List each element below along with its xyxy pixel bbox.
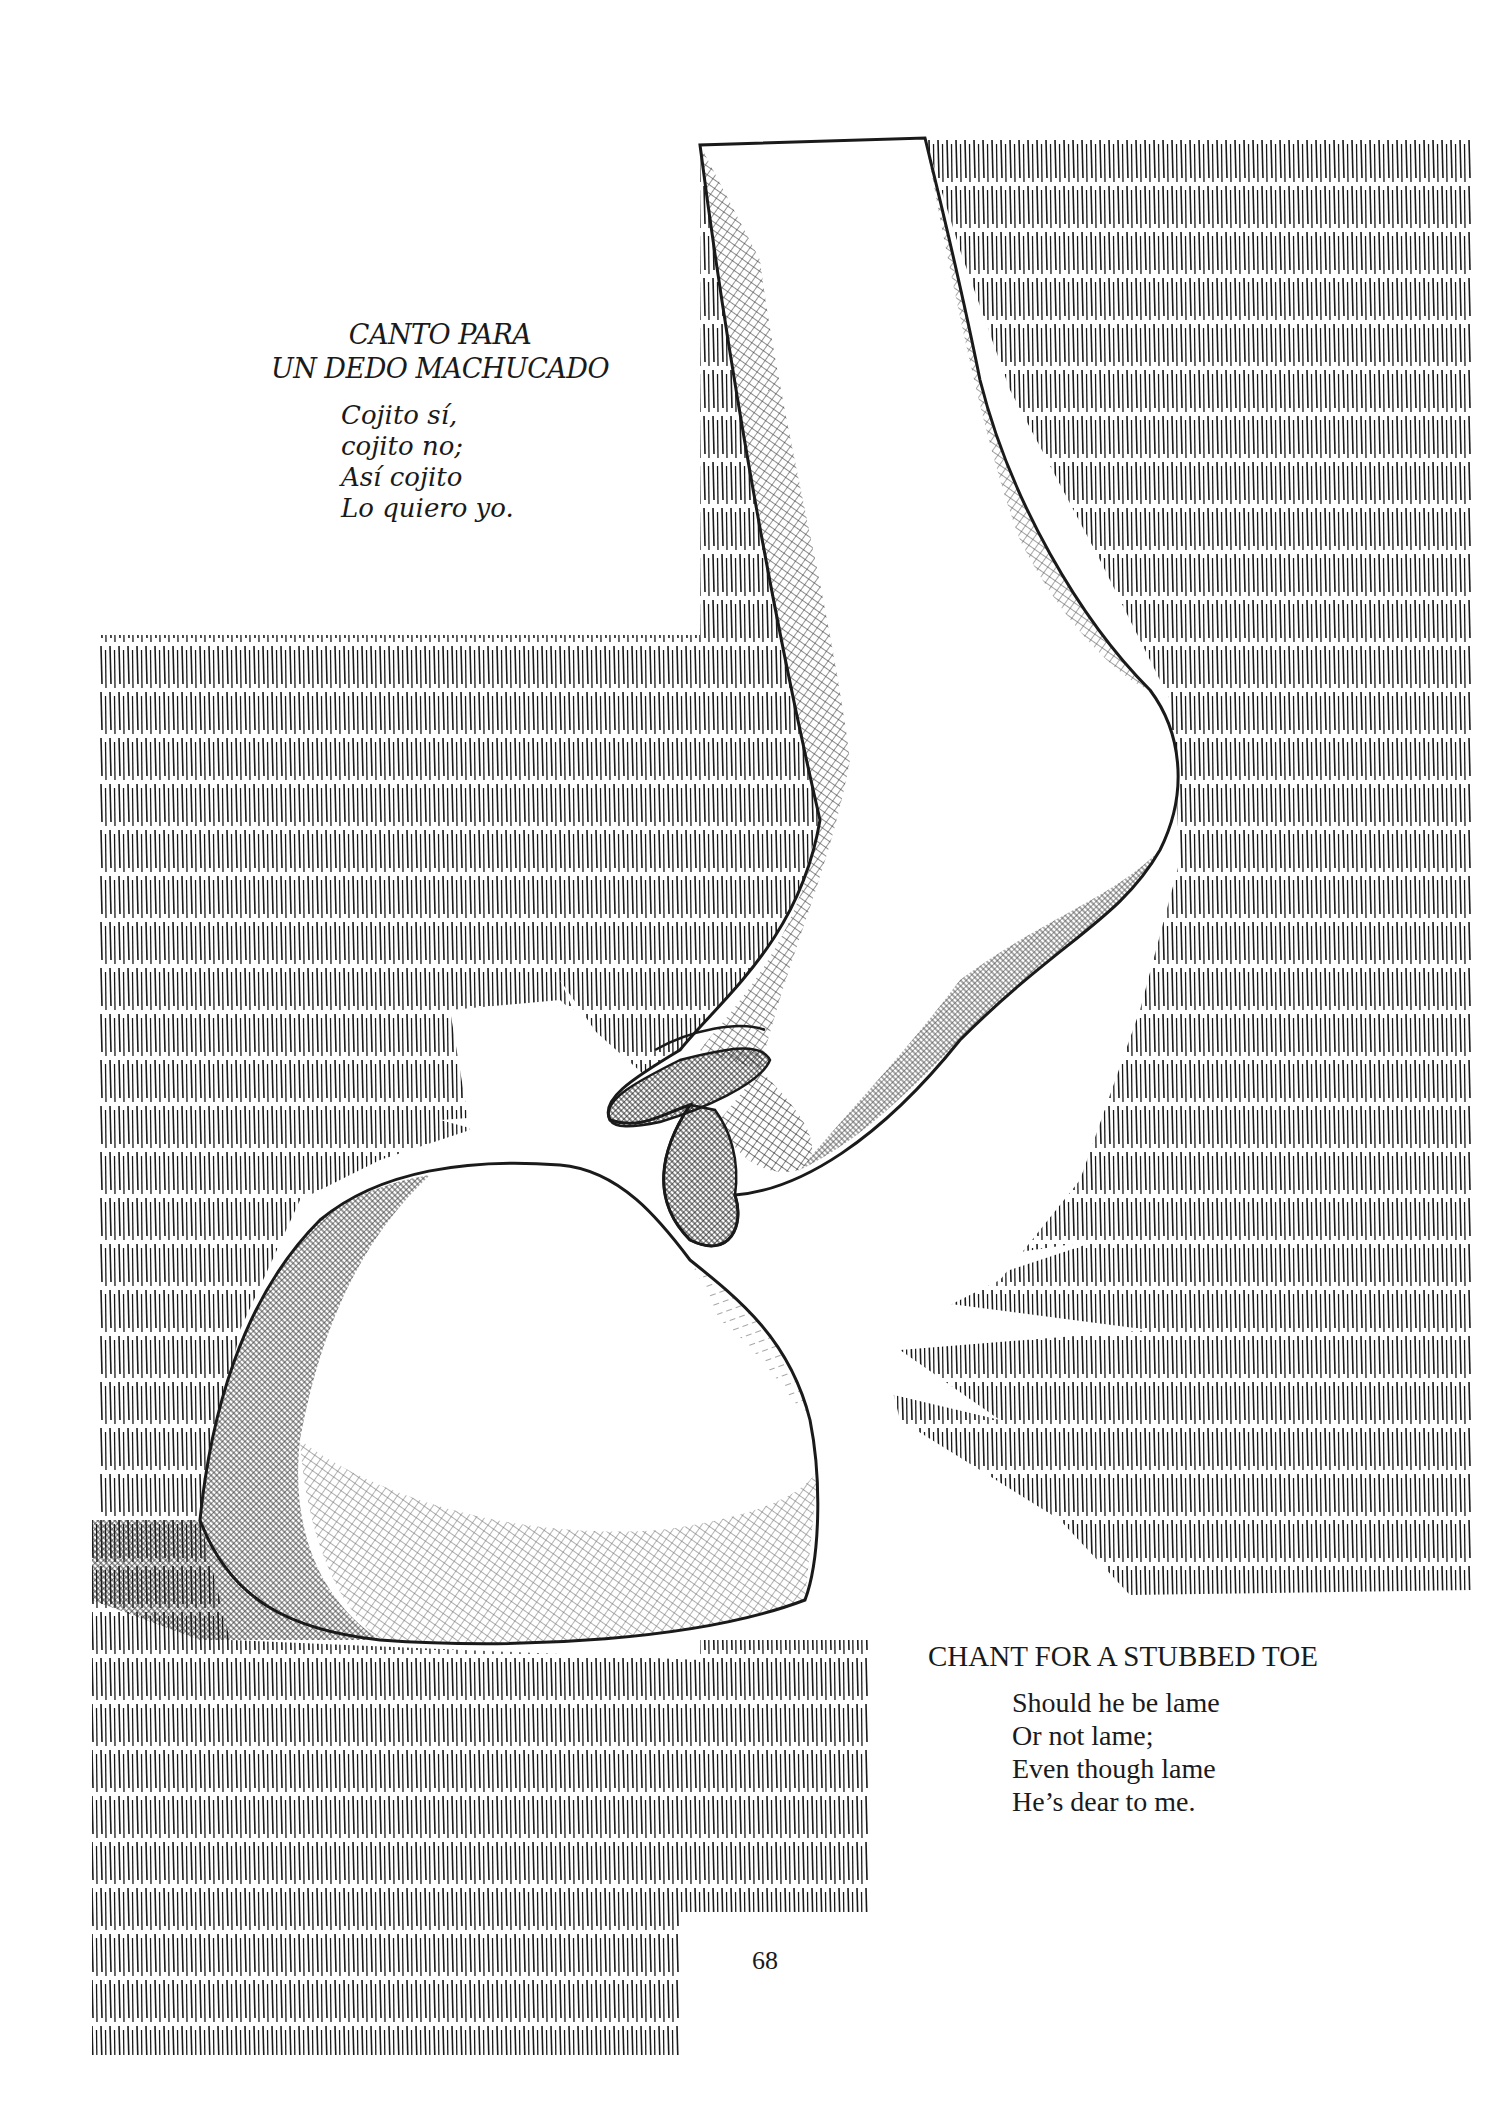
verse-line: Or not lame; [1012, 1719, 1388, 1752]
verse-line: Cojito sí, [341, 400, 625, 431]
spanish-poem: CANTO PARA UN DEDO MACHUCADO Cojito sí, … [255, 318, 625, 524]
verse-line: He’s dear to me. [1012, 1785, 1388, 1818]
spanish-title-line: UN DEDO MACHUCADO [255, 352, 625, 386]
spanish-title-line: CANTO PARA [255, 318, 625, 352]
english-poem-title: CHANT FOR A STUBBED TOE [928, 1638, 1388, 1674]
english-poem-verses: Should he be lame Or not lame; Even thou… [1012, 1686, 1388, 1818]
verse-line: Lo quiero yo. [341, 493, 625, 524]
spanish-poem-verses: Cojito sí, cojito no; Así cojito Lo quie… [341, 400, 625, 524]
english-poem: CHANT FOR A STUBBED TOE Should he be lam… [928, 1638, 1388, 1818]
verse-line: Even though lame [1012, 1752, 1388, 1785]
page-number: 68 [740, 1946, 790, 1976]
verse-line: Así cojito [341, 462, 625, 493]
verse-line: Should he be lame [1012, 1686, 1388, 1719]
verse-line: cojito no; [341, 431, 625, 462]
spanish-poem-title: CANTO PARA UN DEDO MACHUCADO [255, 318, 625, 386]
book-page: CANTO PARA UN DEDO MACHUCADO Cojito sí, … [0, 0, 1508, 2109]
